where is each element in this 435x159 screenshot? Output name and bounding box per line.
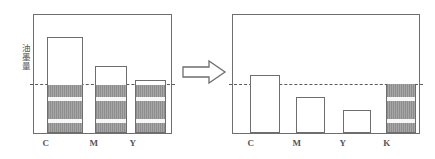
tick-label-after-y: Y [333,138,353,148]
bar-shaded-region [48,85,82,132]
bar-after-y [343,110,371,133]
plot-area-before [34,15,171,133]
tick-label-before-m: M [84,138,104,148]
bar-shaded-region [387,84,415,132]
bar-after-m [296,97,325,133]
bar-shaded-region [96,85,126,132]
bar-after-k [386,85,416,133]
y-axis-title: 油墨量 [14,44,30,71]
tick-label-before-c: C [36,138,56,148]
tick-label-before-y: Y [123,138,143,148]
chart-panel-before [33,14,172,134]
bar-shaded-region [136,85,165,132]
tick-label-after-k: K [377,138,397,148]
tick-label-after-c: C [241,138,261,148]
right-arrow-icon [181,59,227,85]
bar-before-m [95,66,127,133]
tick-label-after-m: M [287,138,307,148]
bar-before-c [47,37,83,133]
bar-before-y [135,80,166,133]
bar-after-c [250,75,280,133]
chart-panel-after [232,14,420,134]
plot-area-after [233,15,419,133]
ink-level-figure: 油墨量 C M Y [0,0,435,159]
